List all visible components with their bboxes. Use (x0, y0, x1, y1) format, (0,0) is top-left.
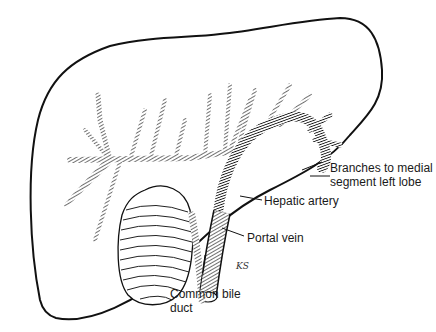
label-portal-vein: Portal vein (247, 231, 304, 245)
artist-signature: KS (236, 261, 249, 271)
label-common-bile-duct: Common bile duct (170, 287, 241, 315)
label-branches-medial-segment: Branches to medial segment left lobe (330, 161, 433, 189)
label-hepatic-artery: Hepatic artery (264, 194, 339, 208)
